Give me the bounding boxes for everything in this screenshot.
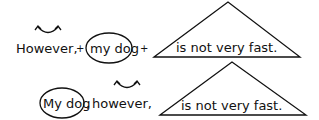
subject-text: My dog: [43, 96, 91, 111]
predicate-text: is not very fast.: [176, 40, 277, 55]
row-1: However, + my dog + is not very fast.: [16, 2, 300, 63]
plus-sign: +: [76, 43, 84, 54]
subject-text: my dog: [90, 41, 139, 56]
word-however: However,: [16, 41, 78, 56]
move-arrow-icon: [35, 26, 61, 33]
comma: ,: [86, 96, 90, 111]
predicate-text: is not very fast.: [181, 98, 282, 113]
plus-sign: +: [140, 43, 148, 54]
word-however: however,: [92, 96, 152, 111]
move-arrow-icon: [114, 81, 140, 88]
row-2: My dog , however, is not very fast.: [40, 62, 306, 118]
diagram-canvas: However, + my dog + is not very fast. My…: [0, 0, 319, 120]
